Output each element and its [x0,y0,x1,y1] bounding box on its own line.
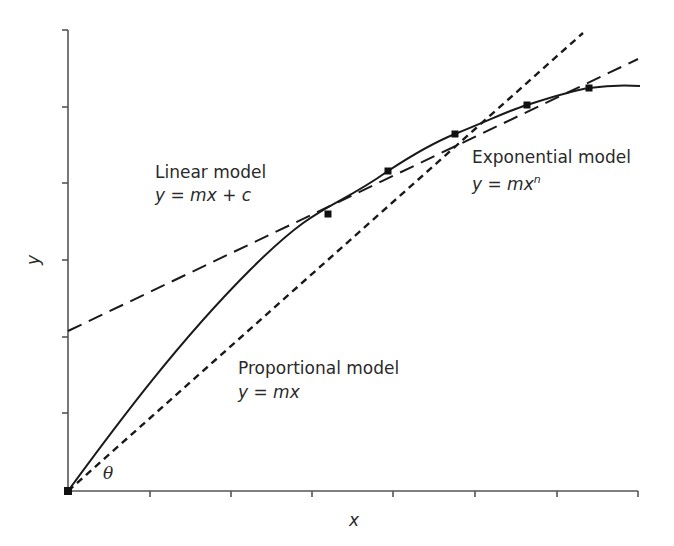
proportional-model-equation: y = mx [238,382,300,402]
proportional-model-line [68,33,583,491]
exponential-eq-exponent: n [534,173,541,186]
exponential-model-title: Exponential model [472,147,631,167]
exponential-eq-base: y = mx [472,174,534,194]
exponential-model-equation: y = mxn [472,170,541,194]
y-axis-label: y [23,255,43,265]
linear-model-equation: y = mx + c [155,185,251,205]
theta-angle-label: θ [103,463,113,483]
data-point [385,168,392,175]
data-point [524,102,531,109]
data-point [452,131,459,138]
data-point [586,85,593,92]
proportional-model-title: Proportional model [238,358,399,378]
linear-model-title: Linear model [155,162,266,182]
data-point-origin [64,487,72,495]
chart-canvas [0,0,674,546]
data-point [325,211,332,218]
x-axis-label: x [349,510,359,530]
linear-model-line [68,59,638,331]
